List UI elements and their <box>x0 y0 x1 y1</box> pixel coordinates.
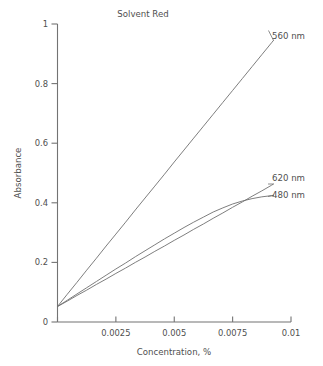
x-tick-label: 0.0075 <box>218 328 247 338</box>
y-tick-label: 0 <box>43 317 48 327</box>
series-label-620-nm: 620 nm <box>272 173 305 183</box>
y-axis-title: Absorbance <box>13 148 23 199</box>
series-line-620-nm <box>58 184 274 306</box>
y-tick-label: 0.2 <box>35 257 48 267</box>
series-line-480-nm <box>58 195 274 306</box>
y-tick-label: 0.4 <box>35 198 48 208</box>
x-tick-label: 0.005 <box>162 328 186 338</box>
series-label-480-nm: 480 nm <box>272 190 305 200</box>
series-group <box>58 40 274 306</box>
x-tick-label: 0.0025 <box>101 328 130 338</box>
x-tick-label: 0.01 <box>282 328 301 338</box>
series-annotations: 560 nm620 nm480 nm <box>268 31 305 201</box>
x-axis-title: Concentration, % <box>137 347 211 357</box>
series-label-560-nm: 560 nm <box>272 31 305 41</box>
y-tick-label: 0.6 <box>35 138 48 148</box>
series-line-560-nm <box>58 40 274 306</box>
line-chart: Solvent Red 00.20.40.60.81 0.00250.0050.… <box>0 0 323 366</box>
y-tick-label: 1 <box>43 19 48 29</box>
chart-figure: Solvent Red 00.20.40.60.81 0.00250.0050.… <box>0 0 323 366</box>
y-axis-ticks: 00.20.40.60.81 <box>35 19 58 327</box>
chart-title: Solvent Red <box>117 9 168 19</box>
y-tick-label: 0.8 <box>35 79 48 89</box>
x-axis-ticks: 0.00250.0050.00750.01 <box>58 317 301 339</box>
